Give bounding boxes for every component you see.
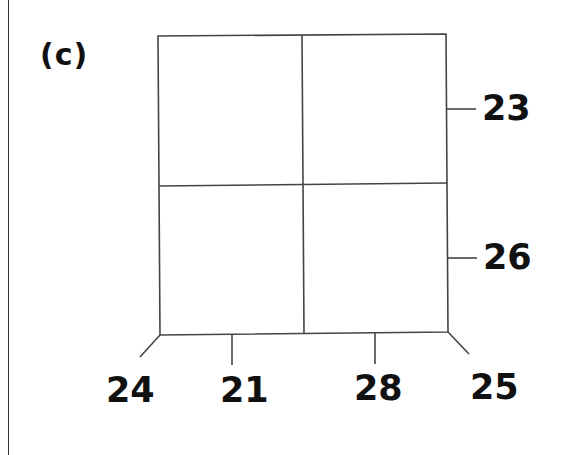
- leader-25: [448, 332, 469, 354]
- leader-24: [140, 335, 160, 357]
- label-23: 23: [482, 91, 531, 126]
- label-26: 26: [483, 240, 532, 275]
- label-25: 25: [470, 370, 519, 405]
- label-21: 21: [220, 373, 269, 408]
- label-24: 24: [106, 373, 155, 408]
- label-28: 28: [354, 371, 403, 406]
